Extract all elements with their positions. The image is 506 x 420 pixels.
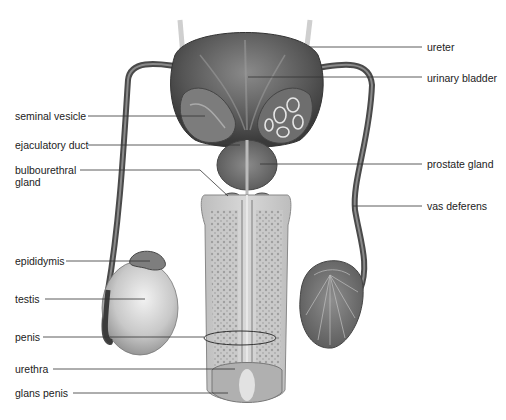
label-bulbourethral-line2: gland [15,176,76,188]
label-ejaculatory-duct: ejaculatory duct [15,139,89,151]
label-urinary-bladder: urinary bladder [427,72,497,84]
label-ureter: ureter [427,41,454,53]
label-vas-deferens: vas deferens [427,200,487,212]
testis-right-shape [300,261,363,348]
testis-left-shape [102,261,178,355]
label-bulbourethral-gland: bulbourethral gland [15,164,76,188]
diagram-stage: seminal vesicle ejaculatory duct bulbour… [0,0,506,420]
label-epididymis: epididymis [15,255,65,267]
label-prostate-gland: prostate gland [427,158,494,170]
label-urethra: urethra [15,363,48,375]
label-testis: testis [15,293,40,305]
label-penis: penis [15,331,40,343]
label-seminal-vesicle: seminal vesicle [15,110,86,122]
label-bulbourethral-line1: bulbourethral [15,164,76,176]
label-glans-penis: glans penis [15,387,68,399]
